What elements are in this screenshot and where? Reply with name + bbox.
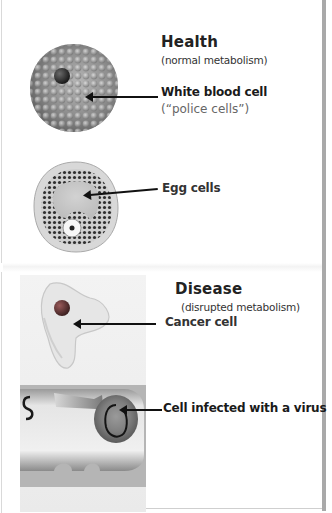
white-blood-cell-label: White blood cell [161, 85, 267, 99]
section-divider [3, 263, 322, 272]
white-blood-cell-note: (“police cells”) [161, 102, 249, 116]
page-bottom-line [120, 508, 322, 509]
pointer-arrow-white-blood-cell [92, 96, 158, 98]
egg-cells-label: Egg cells [162, 181, 220, 195]
infected-cell-label: Cell infected with a virus [163, 401, 326, 415]
disease-subheading: (disrupted metabolism) [181, 301, 300, 313]
left-margin-rule [1, 0, 2, 263]
pointer-arrow-infected-cell [126, 409, 162, 411]
page: Health (normal metabolism) White blood c… [0, 0, 332, 513]
disease-heading: Disease [175, 280, 242, 298]
left-margin-rule [1, 272, 2, 513]
health-subheading: (normal metabolism) [161, 54, 267, 66]
pointer-arrow-cancer-cell [80, 323, 156, 325]
cancer-cell-label: Cancer cell [165, 315, 237, 329]
virus-infected-cell-illustration [20, 385, 146, 487]
page-right-border [322, 0, 326, 511]
white-blood-cell-illustration [26, 40, 122, 136]
egg-cell-illustration [32, 160, 122, 254]
health-heading: Health [161, 33, 218, 51]
